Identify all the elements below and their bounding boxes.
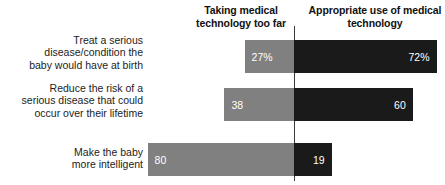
bar-value-left: 27% <box>252 51 273 63</box>
bar-right-make-baby-intelligent: 19 <box>294 143 332 176</box>
bar-right-treat-serious-disease: 72% <box>294 40 437 73</box>
bar-left-make-baby-intelligent: 80 <box>148 143 294 176</box>
bar-value-right: 19 <box>313 154 325 166</box>
row-label-make-baby-intelligent: Make the baby more intelligent <box>0 146 143 171</box>
bar-left-reduce-risk: 38 <box>224 88 294 121</box>
column-header-right: Appropriate use of medical technology <box>308 4 442 29</box>
bar-value-right: 60 <box>394 99 406 111</box>
row-label-reduce-risk: Reduce the risk of a serious disease tha… <box>0 82 143 119</box>
diverging-bar-chart: Taking medical technology too far Approp… <box>0 0 445 185</box>
bar-left-treat-serious-disease: 27% <box>245 40 294 73</box>
bar-value-left: 38 <box>231 99 243 111</box>
column-header-left: Taking medical technology too far <box>182 4 300 29</box>
row-label-treat-serious-disease: Treat a serious disease/condition the ba… <box>0 34 143 71</box>
bar-value-left: 80 <box>155 154 167 166</box>
bar-right-reduce-risk: 60 <box>294 88 413 121</box>
bar-value-right: 72% <box>409 51 430 63</box>
